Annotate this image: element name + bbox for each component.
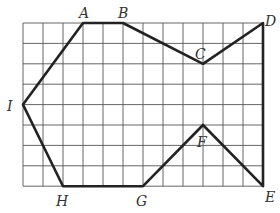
- label-h: H: [56, 194, 68, 208]
- label-a: A: [79, 6, 89, 20]
- label-d: D: [265, 14, 276, 28]
- label-e: E: [265, 190, 275, 204]
- label-b: B: [118, 6, 128, 20]
- label-c: C: [195, 47, 206, 61]
- grid-diagram: [0, 0, 280, 213]
- label-i: I: [7, 99, 13, 113]
- label-f: F: [197, 135, 207, 149]
- label-g: G: [136, 194, 147, 208]
